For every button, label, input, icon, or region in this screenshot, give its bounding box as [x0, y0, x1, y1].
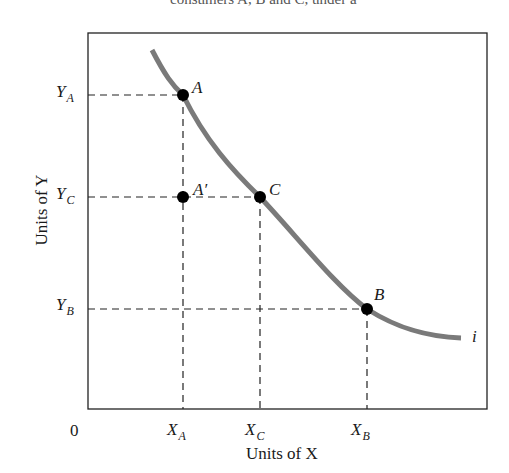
point-label-a-prime: A′ — [193, 180, 207, 200]
y-axis-title: Units of Y — [32, 160, 52, 260]
point-a-prime — [177, 191, 189, 203]
point-a — [177, 89, 189, 101]
y-tick-yc: YC — [56, 184, 74, 204]
x-tick-xc: XC — [245, 420, 264, 440]
x-axis-title: Units of X — [246, 444, 318, 464]
indifference-curve-chart — [0, 0, 509, 473]
y-tick-yb-sub: B — [66, 304, 73, 318]
x-tick-xb: XB — [351, 420, 370, 440]
y-tick-yb: YB — [56, 295, 74, 315]
x-tick-xa-name: X — [167, 420, 177, 439]
plot-frame — [88, 33, 487, 409]
point-label-b: B — [374, 285, 384, 305]
x-tick-xc-sub: C — [256, 429, 264, 443]
y-tick-ya: YA — [56, 82, 74, 102]
curve-label-i: i — [472, 327, 477, 347]
origin-label: 0 — [70, 421, 79, 441]
x-tick-xc-name: X — [245, 420, 255, 439]
point-label-c: C — [269, 180, 280, 200]
y-tick-yb-name: Y — [56, 295, 65, 314]
y-tick-ya-sub: A — [66, 91, 73, 105]
point-c — [254, 191, 266, 203]
y-tick-ya-name: Y — [56, 82, 65, 101]
x-tick-xb-sub: B — [362, 429, 369, 443]
guide-lines — [88, 95, 367, 409]
y-tick-yc-sub: C — [66, 193, 74, 207]
x-tick-xa-sub: A — [178, 429, 185, 443]
x-tick-xb-name: X — [351, 420, 361, 439]
x-tick-xa: XA — [167, 420, 186, 440]
point-label-a: A — [192, 78, 202, 98]
data-points — [177, 89, 373, 315]
y-tick-yc-name: Y — [56, 184, 65, 203]
point-b — [361, 303, 373, 315]
